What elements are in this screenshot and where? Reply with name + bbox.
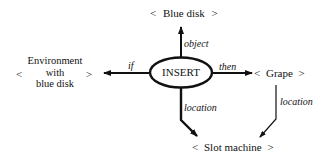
node-label-line-2: with <box>24 67 86 79</box>
node-environment: < Environment with blue disk > <box>14 55 96 91</box>
open-bracket: < <box>254 67 260 79</box>
node-label: Grape <box>266 67 293 79</box>
node-label: Environment with blue disk <box>24 55 86 90</box>
node-slot-machine: < Slot machine > <box>192 142 274 153</box>
edge-label-if: if <box>128 61 134 71</box>
close-bracket: > <box>86 68 92 80</box>
close-bracket: > <box>212 7 218 19</box>
node-label: Blue disk <box>163 7 205 19</box>
close-bracket: > <box>267 141 273 153</box>
open-bracket: < <box>150 7 156 19</box>
edge-label-location-grape: location <box>280 97 313 107</box>
edge-label-then: then <box>219 62 236 72</box>
node-label: Slot machine <box>204 141 262 153</box>
close-bracket: > <box>299 67 305 79</box>
open-bracket: < <box>192 141 198 153</box>
node-label-line-3: blue disk <box>24 78 86 90</box>
node-grape: < Grape > <box>254 68 305 79</box>
open-bracket: < <box>16 68 22 80</box>
node-blue-disk: < Blue disk > <box>150 8 218 19</box>
edge-label-object: object <box>184 39 208 49</box>
node-label-line-1: Environment <box>24 55 86 67</box>
edge-label-location-insert: location <box>184 103 217 113</box>
insert-label: INSERT <box>150 66 212 78</box>
location-arrow-grape <box>260 85 276 137</box>
